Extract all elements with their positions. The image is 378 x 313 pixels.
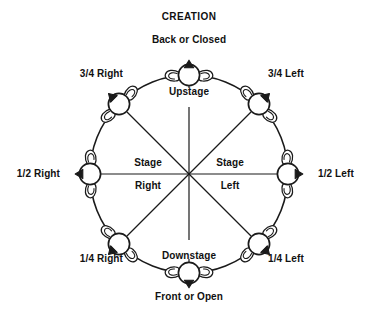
label-upstage: Upstage bbox=[129, 86, 249, 98]
label-stage-left-line1: Stage bbox=[207, 156, 253, 169]
figure-back-or-closed bbox=[165, 60, 213, 85]
label-front-or-open: Front or Open bbox=[0, 291, 378, 303]
label-three-quarter-left: 3/4 Left bbox=[268, 68, 378, 80]
figure-half-right bbox=[75, 150, 100, 198]
stage-position-diagram: CREATION Back or Closed Upstage 3/4 Righ… bbox=[0, 0, 378, 313]
label-half-right: 1/2 Right bbox=[0, 168, 60, 180]
label-quarter-left: 1/4 Left bbox=[268, 253, 378, 265]
label-back-or-closed: Back or Closed bbox=[0, 34, 378, 46]
label-stage-right-line2: Right bbox=[125, 179, 171, 192]
figure-half-left bbox=[277, 150, 302, 198]
label-half-left: 1/2 Left bbox=[318, 168, 378, 180]
diagram-canvas bbox=[0, 0, 378, 313]
label-downstage: Downstage bbox=[129, 250, 249, 262]
label-stage-left-line2: Left bbox=[207, 179, 253, 192]
label-three-quarter-right: 3/4 Right bbox=[0, 68, 123, 80]
label-stage-right-line1: Stage bbox=[125, 156, 171, 169]
label-quarter-right: 1/4 Right bbox=[0, 253, 123, 265]
page-title: CREATION bbox=[0, 11, 378, 23]
figure-front-or-open bbox=[165, 262, 213, 287]
